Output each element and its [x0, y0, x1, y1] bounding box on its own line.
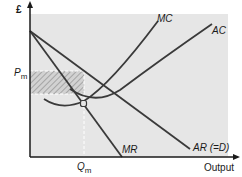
y-axis-label: £ — [16, 4, 22, 15]
profit-area — [30, 71, 84, 94]
mr-label: MR — [122, 144, 138, 155]
monopoly-diagram: £ Output Pm Qm MC AC MR AR (=D) — [0, 0, 242, 177]
x-axis-label: Output — [204, 162, 234, 173]
price-label: Pm — [14, 67, 28, 81]
quantity-label: Qm — [77, 161, 92, 175]
mc-label: MC — [157, 13, 173, 24]
equilibrium-marker — [81, 101, 87, 107]
ac-label: AC — [211, 25, 227, 36]
ar-label: AR (=D) — [192, 142, 229, 153]
y-axis-arrow-icon — [27, 1, 33, 8]
x-axis-arrow-icon — [233, 154, 240, 160]
